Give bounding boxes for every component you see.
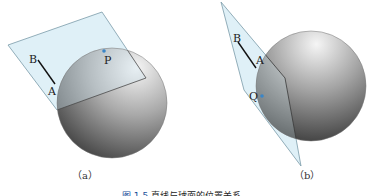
label-p: P	[104, 54, 112, 67]
label-q: Q	[249, 90, 258, 103]
sublabel-b: （b）	[294, 167, 320, 182]
label-b-b: B	[233, 32, 241, 45]
label-b-a: B	[29, 53, 37, 66]
panel-b: B A Q	[221, 2, 366, 166]
point-p-marker	[102, 49, 106, 53]
sublabel-a: （a）	[72, 167, 98, 182]
label-a-b: A	[255, 54, 265, 67]
caption-text: 直线与球面的位置关系	[151, 191, 241, 196]
caption-number: 图 1.5	[122, 191, 148, 196]
point-q-marker	[260, 94, 264, 98]
label-a-a: A	[47, 85, 57, 98]
figure-caption: 图 1.5 直线与球面的位置关系	[122, 189, 241, 196]
panel-a: B A P	[8, 12, 167, 158]
